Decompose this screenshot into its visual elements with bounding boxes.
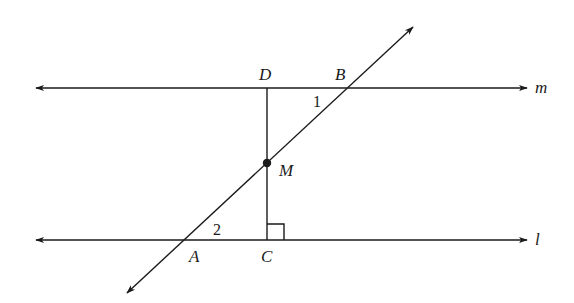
line-m-label: m (535, 78, 547, 97)
point-c-label: C (261, 247, 273, 266)
geometry-diagram: m l D B M A C 1 2 (0, 0, 574, 303)
point-b-label: B (335, 65, 346, 84)
point-m-dot (263, 159, 271, 167)
point-a-label: A (188, 247, 200, 266)
angle-2-label: 2 (213, 221, 221, 238)
line-l-label: l (535, 230, 540, 249)
angle-1-label: 1 (313, 93, 321, 110)
point-d-label: D (258, 65, 272, 84)
right-angle-marker (267, 224, 284, 240)
point-m-label: M (278, 161, 294, 180)
